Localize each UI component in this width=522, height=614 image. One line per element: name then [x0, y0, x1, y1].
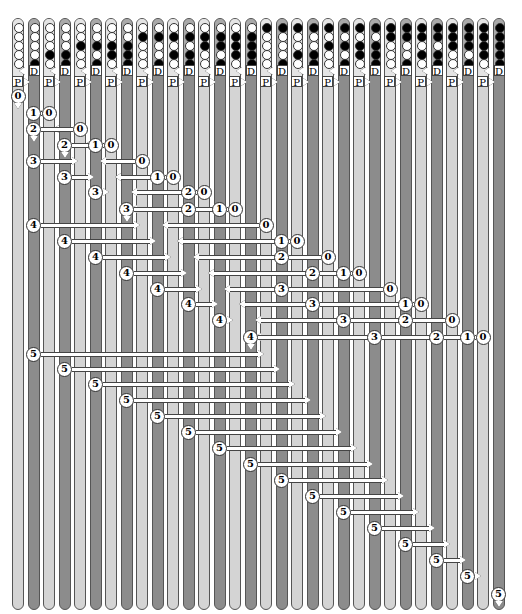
arrow-left-icon — [239, 300, 245, 308]
arrow-down-icon — [123, 216, 131, 222]
step-node: 3 — [305, 297, 320, 312]
step-node: 3 — [119, 202, 134, 217]
processor-column — [245, 18, 257, 610]
arrow-right-icon — [212, 300, 218, 308]
step-node: 0 — [259, 218, 274, 233]
d-arrow-icon — [50, 67, 56, 75]
step-node: 5 — [26, 347, 41, 362]
wire — [196, 302, 212, 307]
step-node: 3 — [336, 313, 351, 328]
d-arrow-icon — [205, 67, 211, 75]
step-node: 3 — [88, 185, 103, 200]
wire — [382, 526, 429, 531]
wire — [444, 558, 460, 563]
step-node: 2 — [26, 122, 41, 137]
p-label: P — [167, 76, 178, 87]
wire — [196, 430, 336, 435]
wire — [258, 462, 367, 467]
wire — [134, 207, 182, 212]
p-arrow-icon — [396, 78, 402, 86]
arrow-left-icon — [115, 173, 121, 181]
wire — [165, 287, 197, 292]
arrow-right-icon — [475, 572, 481, 580]
step-node: 5 — [243, 457, 258, 472]
wire — [72, 175, 88, 180]
p-arrow-icon — [334, 78, 340, 86]
wire — [320, 302, 399, 307]
d-arrow-icon — [422, 67, 428, 75]
arrow-right-icon — [258, 350, 264, 358]
wire — [165, 414, 321, 419]
arrow-left-icon — [162, 221, 168, 229]
step-node: 1 — [212, 202, 227, 217]
processor-column — [276, 18, 288, 610]
arrow-right-icon — [150, 237, 156, 245]
p-arrow-icon — [241, 78, 247, 86]
processor-column — [167, 18, 179, 610]
step-node: 1 — [398, 297, 413, 312]
d-arrow-icon — [360, 67, 366, 75]
p-label: P — [446, 76, 457, 87]
step-node: 4 — [243, 330, 258, 345]
p-arrow-icon — [303, 78, 309, 86]
step-node: 2 — [429, 330, 444, 345]
d-label: D — [308, 65, 319, 76]
step-node: 2 — [398, 313, 413, 328]
wire — [261, 318, 337, 323]
wire — [351, 510, 414, 515]
arrow-right-icon — [134, 221, 140, 229]
d-arrow-icon — [484, 67, 490, 75]
arrow-right-icon — [227, 316, 233, 324]
wire — [103, 382, 290, 387]
wire — [258, 335, 368, 340]
d-label: D — [246, 65, 257, 76]
p-arrow-icon — [86, 78, 92, 86]
arrow-right-icon — [274, 365, 280, 373]
p-label: P — [229, 76, 240, 87]
wire — [134, 398, 305, 403]
arrow-left-icon — [100, 157, 106, 165]
wire — [289, 255, 322, 260]
step-node: 4 — [119, 266, 134, 281]
wire — [413, 318, 446, 323]
step-node: 0 — [290, 234, 305, 249]
step-node: 5 — [491, 587, 506, 602]
d-arrow-icon — [329, 67, 335, 75]
d-arrow-icon — [453, 67, 459, 75]
processor-column — [183, 18, 195, 610]
p-label: P — [322, 76, 333, 87]
step-node: 0 — [104, 138, 119, 153]
d-arrow-icon — [236, 67, 242, 75]
processor-column — [493, 18, 505, 610]
step-node: 0 — [11, 89, 26, 104]
step-node: 3 — [26, 154, 41, 169]
arrow-down-icon — [247, 344, 255, 350]
p-arrow-icon — [55, 78, 61, 86]
wire — [72, 367, 274, 372]
p-label: P — [198, 76, 209, 87]
step-node: 5 — [460, 569, 475, 584]
p-arrow-icon — [179, 78, 185, 86]
step-node: 2 — [305, 266, 320, 281]
step-node: 2 — [57, 138, 72, 153]
wire — [413, 542, 445, 547]
p-label: P — [136, 76, 147, 87]
p-label: P — [384, 76, 395, 87]
wire — [41, 352, 259, 357]
arrow-down-icon — [61, 152, 69, 158]
wire — [289, 287, 384, 292]
arrow-right-icon — [367, 460, 373, 468]
d-label: D — [370, 65, 381, 76]
p-label: P — [477, 76, 488, 87]
p-label: P — [74, 76, 85, 87]
step-node: 1 — [336, 266, 351, 281]
d-arrow-icon — [143, 67, 149, 75]
step-node: 0 — [414, 297, 429, 312]
step-node: 0 — [135, 154, 150, 169]
wire — [72, 143, 89, 148]
step-node: 0 — [42, 106, 57, 121]
arrow-right-icon — [289, 380, 295, 388]
p-arrow-icon — [427, 78, 433, 86]
d-label: D — [339, 65, 350, 76]
step-node: 2 — [274, 250, 289, 265]
